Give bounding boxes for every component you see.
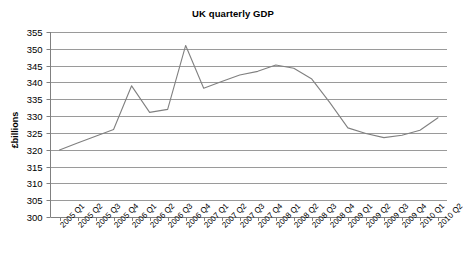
- data-series-line: [60, 45, 438, 150]
- chart-container: UK quarterly GDP £billions 3003053103153…: [0, 0, 466, 280]
- y-tick-label: 350: [17, 45, 43, 55]
- y-tick-label: 335: [17, 95, 43, 105]
- y-tick-label: 305: [17, 196, 43, 206]
- y-tick-label: 345: [17, 62, 43, 72]
- y-axis-ticks: [47, 33, 51, 218]
- y-tick-label: 340: [17, 78, 43, 88]
- y-tick-label: 320: [17, 146, 43, 156]
- y-tick-label: 315: [17, 163, 43, 173]
- y-tick-label: 325: [17, 129, 43, 139]
- y-tick-label: 300: [17, 213, 43, 223]
- y-tick-label: 310: [17, 179, 43, 189]
- y-tick-label: 330: [17, 112, 43, 122]
- gridlines: [51, 33, 448, 201]
- y-tick-label: 355: [17, 28, 43, 38]
- plot-area: [0, 0, 466, 280]
